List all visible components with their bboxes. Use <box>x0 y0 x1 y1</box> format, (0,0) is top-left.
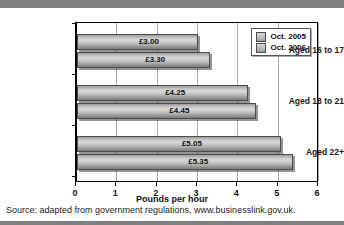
y-axis-tick <box>72 74 77 75</box>
bar <box>77 154 293 170</box>
x-axis-tick <box>115 182 116 186</box>
x-axis-tick <box>156 182 157 186</box>
bar <box>77 34 198 50</box>
y-axis-tick <box>72 125 77 126</box>
bar-value-label: £3.00 <box>139 34 159 50</box>
legend-item: Oct. 2005 <box>256 31 306 42</box>
chart-card: £3.00£3.30£4.25£4.45£5.05£5.35 Oct. 2005… <box>0 8 344 221</box>
bar-value-label: £4.45 <box>169 103 189 119</box>
chart-page: £3.00£3.30£4.25£4.45£5.05£5.35 Oct. 2005… <box>0 0 344 225</box>
source-note: Source: adapted from government regulati… <box>6 205 296 215</box>
category-label: Aged 18 to 21 <box>272 96 344 106</box>
bottom-band <box>0 221 344 225</box>
legend-label: Oct. 2005 <box>270 32 306 41</box>
x-axis-tick <box>236 182 237 186</box>
bar <box>77 85 248 101</box>
bar <box>77 52 210 68</box>
x-axis-tick <box>75 182 76 186</box>
bar-value-label: £4.25 <box>165 85 185 101</box>
bar <box>77 136 281 152</box>
x-axis-tick <box>277 182 278 186</box>
y-axis-tick <box>72 176 77 177</box>
x-axis-tick <box>196 182 197 186</box>
x-axis-tick <box>317 182 318 186</box>
category-label: Aged 22+ <box>272 147 344 157</box>
bar-value-label: £3.30 <box>145 52 165 68</box>
bar <box>77 103 256 119</box>
category-label: Aged 16 to 17 <box>272 45 344 55</box>
x-axis-title: Pounds per hour <box>0 194 344 204</box>
bar-value-label: £5.05 <box>182 136 202 152</box>
top-band <box>0 0 344 8</box>
legend-swatch-icon <box>256 43 266 53</box>
y-axis-tick <box>72 23 77 24</box>
bar-value-label: £5.35 <box>188 154 208 170</box>
legend-swatch-icon <box>256 32 266 42</box>
